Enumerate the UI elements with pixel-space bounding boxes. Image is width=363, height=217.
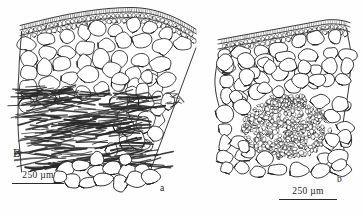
figure-container: B a b 250 µm 250 µm	[0, 0, 363, 217]
scale-bar-right-label: 250 µm	[279, 186, 337, 197]
subfigure-label-a: a	[160, 183, 164, 193]
scale-bar-left-rule	[12, 183, 64, 184]
subfigure-b-drawing	[215, 20, 357, 178]
subfigure-a-drawing	[8, 8, 196, 193]
scale-bar-left: 250 µm	[12, 170, 64, 184]
subfigure-label-b: b	[337, 174, 342, 184]
anatomical-line-drawing	[0, 0, 363, 217]
scale-bar-left-label: 250 µm	[12, 170, 64, 181]
scale-bar-right-rule	[279, 199, 337, 200]
scale-bar-right: 250 µm	[279, 186, 337, 200]
panel-label: B	[13, 147, 21, 159]
